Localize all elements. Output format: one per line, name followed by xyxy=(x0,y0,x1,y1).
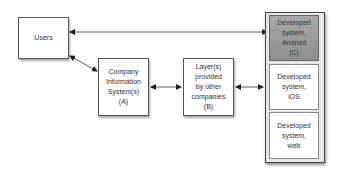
android-label: Developed system, Android (C) xyxy=(277,18,310,58)
ios-label: Developed system, iOS xyxy=(277,72,310,102)
company-information-system-node: Company Information System(s) (A) xyxy=(98,58,149,116)
developed-web-node: Developed system, web xyxy=(269,112,319,159)
company-label: Company Information System(s) (A) xyxy=(106,67,141,107)
web-label: Developed system, web xyxy=(277,121,310,151)
users-label: Users xyxy=(34,33,52,43)
developed-systems-group: Developed system, Android (C) Developed … xyxy=(265,12,325,163)
developed-ios-node: Developed system, iOS xyxy=(269,64,319,110)
developed-android-node: Developed system, Android (C) xyxy=(269,15,319,61)
layers-label: Layer(s) provided by other companies (B) xyxy=(192,62,226,112)
users-node: Users xyxy=(18,17,69,59)
layers-node: Layer(s) provided by other companies (B) xyxy=(183,58,234,116)
edge-users-company xyxy=(70,56,97,71)
